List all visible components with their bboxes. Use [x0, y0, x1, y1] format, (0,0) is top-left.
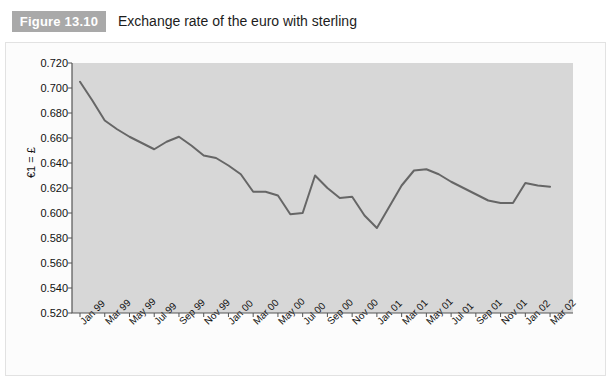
figure-header: Figure 13.10 Exchange rate of the euro w… [0, 0, 613, 44]
figure-panel [5, 42, 606, 376]
figure-root: Figure 13.10 Exchange rate of the euro w… [0, 0, 613, 383]
figure-title: Exchange rate of the euro with sterling [118, 11, 357, 32]
figure-number-badge: Figure 13.10 [12, 11, 106, 32]
